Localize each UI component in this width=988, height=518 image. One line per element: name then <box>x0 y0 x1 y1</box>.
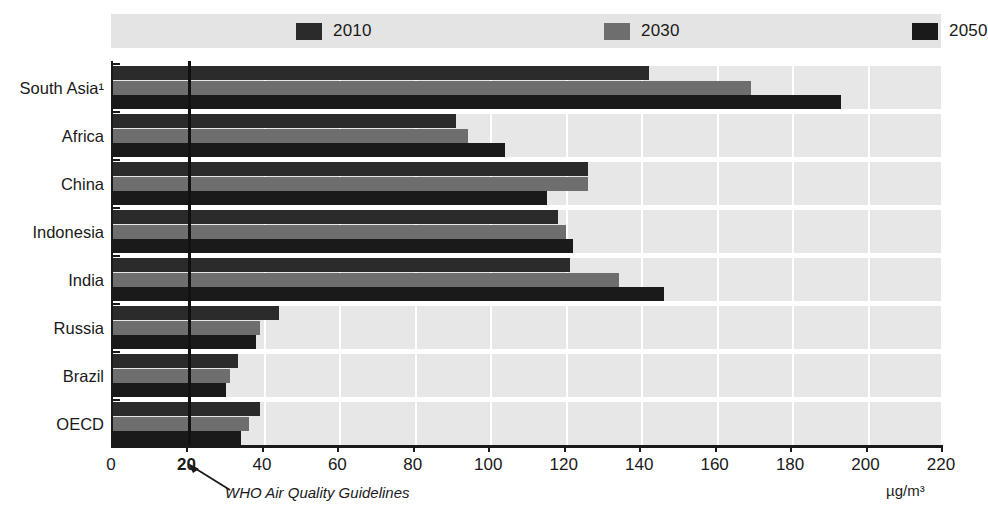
who-guideline-line <box>188 61 191 445</box>
y-axis-labels: South Asia¹AfricaChinaIndonesiaIndiaRuss… <box>0 61 104 445</box>
bar-2010[interactable] <box>113 210 558 224</box>
legend-label-2050: 2050 <box>949 21 988 41</box>
chart-legend: 201020302050 <box>111 14 941 48</box>
bar-2010[interactable] <box>113 114 456 128</box>
y-axis-label-china: China <box>0 175 104 194</box>
bar-2030[interactable] <box>113 81 751 95</box>
y-axis-label-oecd: OECD <box>0 415 104 434</box>
x-axis-tick-160 <box>715 445 717 452</box>
bar-2030[interactable] <box>113 225 566 239</box>
bar-2010[interactable] <box>113 66 649 80</box>
x-axis-label-40: 40 <box>252 455 271 475</box>
bar-2010[interactable] <box>113 162 588 176</box>
bar-2030[interactable] <box>113 321 260 335</box>
plot-area <box>111 61 941 445</box>
bar-2050[interactable] <box>113 287 664 301</box>
x-axis-tick-40 <box>262 445 264 452</box>
y-axis-tick <box>111 207 120 209</box>
legend-label-2030: 2030 <box>641 21 680 41</box>
bar-group <box>113 349 941 397</box>
bar-2050[interactable] <box>113 239 573 253</box>
x-axis-label-80: 80 <box>403 455 422 475</box>
bar-2010[interactable] <box>113 258 570 272</box>
y-axis-label-brazil: Brazil <box>0 367 104 386</box>
bar-2030[interactable] <box>113 369 230 383</box>
bar-group <box>113 205 941 253</box>
bar-2010[interactable] <box>113 306 279 320</box>
y-axis-tick <box>111 399 120 401</box>
x-axis-tick-80 <box>413 445 415 452</box>
bar-group <box>113 157 941 205</box>
y-axis-label-southasia: South Asia¹ <box>0 79 104 98</box>
bar-2010[interactable] <box>113 402 260 416</box>
y-axis-label-russia: Russia <box>0 319 104 338</box>
bar-2030[interactable] <box>113 177 588 191</box>
bar-2010[interactable] <box>113 354 238 368</box>
legend-swatch-2050 <box>912 23 938 40</box>
gridline-220 <box>943 61 945 445</box>
x-axis-label-180: 180 <box>776 455 804 475</box>
legend-entry-2030[interactable]: 2030 <box>604 21 680 41</box>
y-axis-label-indonesia: Indonesia <box>0 223 104 242</box>
legend-entry-2010[interactable]: 2010 <box>296 21 372 41</box>
x-axis-label-60: 60 <box>328 455 347 475</box>
x-axis-tick-20 <box>186 445 188 452</box>
x-axis-label-160: 160 <box>700 455 728 475</box>
y-axis-tick <box>111 159 120 161</box>
x-axis-tick-100 <box>488 445 490 452</box>
y-axis-tick <box>111 351 120 353</box>
x-axis-label-120: 120 <box>550 455 578 475</box>
bar-2050[interactable] <box>113 431 241 445</box>
bar-2050[interactable] <box>113 191 547 205</box>
bar-group <box>113 109 941 157</box>
x-axis-tick-180 <box>790 445 792 452</box>
x-axis-line <box>111 445 943 448</box>
bar-group <box>113 301 941 349</box>
x-axis-label-100: 100 <box>474 455 502 475</box>
x-axis-tick-140 <box>639 445 641 452</box>
x-axis-label-0: 0 <box>106 455 115 475</box>
x-axis-label-200: 200 <box>851 455 879 475</box>
who-guideline-note: WHO Air Quality Guidelines <box>225 484 410 501</box>
y-axis-label-india: India <box>0 271 104 290</box>
bar-group <box>113 397 941 445</box>
legend-swatch-2010 <box>296 23 322 40</box>
bar-2050[interactable] <box>113 335 256 349</box>
bar-group <box>113 253 941 301</box>
y-axis-tick <box>111 63 120 65</box>
x-axis-tick-60 <box>337 445 339 452</box>
legend-swatch-2030 <box>604 23 630 40</box>
x-axis-label-20: 20 <box>177 455 196 475</box>
bar-group <box>113 61 941 109</box>
bar-2050[interactable] <box>113 143 505 157</box>
bar-2050[interactable] <box>113 95 841 109</box>
x-axis-tick-120 <box>564 445 566 452</box>
x-axis-unit-label: µg/m³ <box>886 482 925 499</box>
x-axis-label-140: 140 <box>625 455 653 475</box>
x-axis-tick-200 <box>866 445 868 452</box>
bar-2030[interactable] <box>113 129 468 143</box>
legend-entry-2050[interactable]: 2050 <box>912 21 988 41</box>
y-axis-tick <box>111 303 120 305</box>
y-axis-label-africa: Africa <box>0 127 104 146</box>
bar-2030[interactable] <box>113 417 249 431</box>
x-axis-tick-220 <box>941 445 943 452</box>
y-axis-tick <box>111 111 120 113</box>
bar-2050[interactable] <box>113 383 226 397</box>
y-axis-tick <box>111 255 120 257</box>
legend-label-2010: 2010 <box>333 21 372 41</box>
x-axis-label-220: 220 <box>927 455 955 475</box>
